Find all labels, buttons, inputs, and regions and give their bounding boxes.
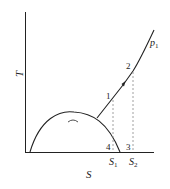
point-label-3: 3 bbox=[126, 142, 131, 152]
entropy-s1-label: S1 bbox=[109, 156, 118, 169]
point-label-1: 1 bbox=[106, 91, 111, 101]
ts-diagram: T S p1 1 2 3 4 S1 S2 bbox=[0, 0, 170, 189]
y-axis-label: T bbox=[13, 70, 25, 77]
diagram-svg: T S p1 1 2 3 4 S1 S2 bbox=[0, 0, 170, 189]
entropy-s2-label: S2 bbox=[129, 156, 138, 169]
x-axis-label: S bbox=[86, 168, 92, 180]
isobar-label: p1 bbox=[149, 37, 159, 50]
point-label-2: 2 bbox=[126, 61, 131, 71]
isobar-p1-curve bbox=[97, 30, 154, 118]
point-label-4: 4 bbox=[106, 142, 111, 152]
critical-point-mark bbox=[68, 120, 78, 122]
